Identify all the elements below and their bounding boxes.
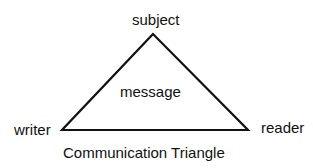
center-label-message: message — [120, 84, 181, 100]
vertex-label-writer: writer — [14, 122, 51, 138]
vertex-label-subject: subject — [132, 12, 180, 28]
diagram-caption: Communication Triangle — [63, 145, 225, 161]
vertex-label-reader: reader — [261, 120, 304, 136]
